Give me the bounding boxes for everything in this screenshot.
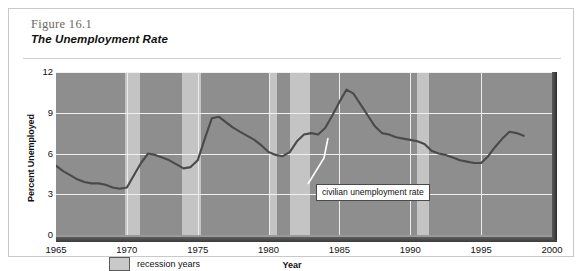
figure-number: Figure 16.1 <box>31 17 168 31</box>
y-tick-12: 12 <box>31 66 53 77</box>
title-divider <box>23 58 561 59</box>
x-tick-1990: 1990 <box>390 244 430 255</box>
plot-right-edge-3d <box>552 72 557 240</box>
x-axis-label: Year <box>9 260 575 270</box>
legend-swatch-recession <box>109 257 130 271</box>
annotation-callout: civilian unemployment rate <box>316 184 430 201</box>
x-tick-1975: 1975 <box>178 244 218 255</box>
figure-title: The Unemployment Rate <box>31 32 168 47</box>
x-tick-1995: 1995 <box>461 244 501 255</box>
x-tick-1985: 1985 <box>319 244 359 255</box>
x-tick-2000: 2000 <box>532 244 572 255</box>
y-axis-ticks: 129630 <box>29 61 53 236</box>
x-tick-1980: 1980 <box>249 244 289 255</box>
legend: recession years <box>109 257 200 271</box>
x-tick-1965: 1965 <box>36 244 76 255</box>
plot-panel: civilian unemployment rate <box>56 72 552 235</box>
chart-area: Percent Unemployed 129630 civilian unemp… <box>9 61 575 257</box>
y-tick-6: 6 <box>31 148 53 159</box>
annotation-text: civilian unemployment rate <box>322 187 424 197</box>
legend-label-recession: recession years <box>137 259 200 269</box>
plot-base-highlight <box>56 235 557 237</box>
y-tick-0: 0 <box>31 229 53 240</box>
unemployment-rate-line <box>56 72 552 235</box>
title-block: Figure 16.1 The Unemployment Rate <box>31 17 168 47</box>
y-tick-3: 3 <box>31 188 53 199</box>
y-tick-9: 9 <box>31 107 53 118</box>
x-tick-1970: 1970 <box>107 244 147 255</box>
figure-card: Figure 16.1 The Unemployment Rate Percen… <box>8 8 574 257</box>
